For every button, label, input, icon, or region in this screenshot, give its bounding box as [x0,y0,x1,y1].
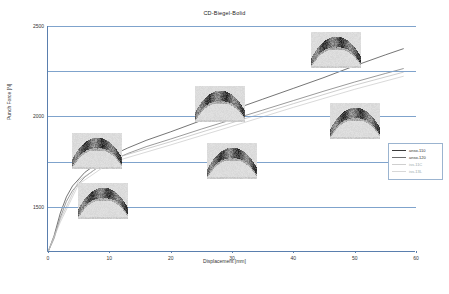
plot-area: 0102030405060 05001000150020002500 [47,26,415,252]
legend-item-iss-13l: iss-13L [392,168,439,175]
legend-swatch-iss-13l [392,171,406,172]
specimen-thumb-3 [195,86,245,122]
x-tick-label: 40 [291,255,297,261]
specimen-thumb-4 [207,143,257,179]
y-gridline: 2000 [48,71,416,72]
specimen-thumb-1 [72,133,122,169]
chart-title: CD-Biegel-Bolid [0,10,449,16]
legend-swatch-iss-11c [392,164,406,165]
x-tick-label: 20 [168,255,174,261]
y-gridline: 0 [48,252,416,253]
legend-label-anso-110: anso-110 [409,148,425,153]
chart-figure: CD-Biegel-Bolid Punch Force [N] Displace… [0,0,449,294]
legend-label-anso-120: anso-120 [409,155,426,160]
x-tick-label: 50 [352,255,358,261]
legend-item-anso-120: anso-120 [392,154,439,161]
y-gridline: 2500 [48,26,416,27]
x-tick-label: 30 [229,255,235,261]
legend-label-iss-11c: iss-11C [409,162,422,167]
specimen-thumb-6 [330,103,380,139]
x-tick-label: 10 [107,255,113,261]
specimen-thumb-2 [78,183,128,219]
x-tick-label: 60 [413,255,419,261]
legend-item-anso-110: anso-110 [392,147,439,154]
legend-item-iss-11c: iss-11C [392,161,439,168]
y-tick-label: 1500 [33,204,44,210]
x-tick-label: 0 [47,255,50,261]
y-axis-label: Punch Force [N] [6,84,12,120]
y-tick-label: 2000 [33,113,44,119]
legend-swatch-anso-110 [392,150,406,151]
legend-swatch-anso-120 [392,157,406,158]
y-tick-label: 2500 [33,23,44,29]
x-tick-mark [416,251,417,253]
legend-label-iss-13l: iss-13L [409,169,422,174]
specimen-thumb-5 [311,32,361,68]
x-axis-ticks: 0102030405060 [48,251,416,271]
chart-legend: anso-110 anso-120 iss-11C iss-13L [388,143,443,180]
